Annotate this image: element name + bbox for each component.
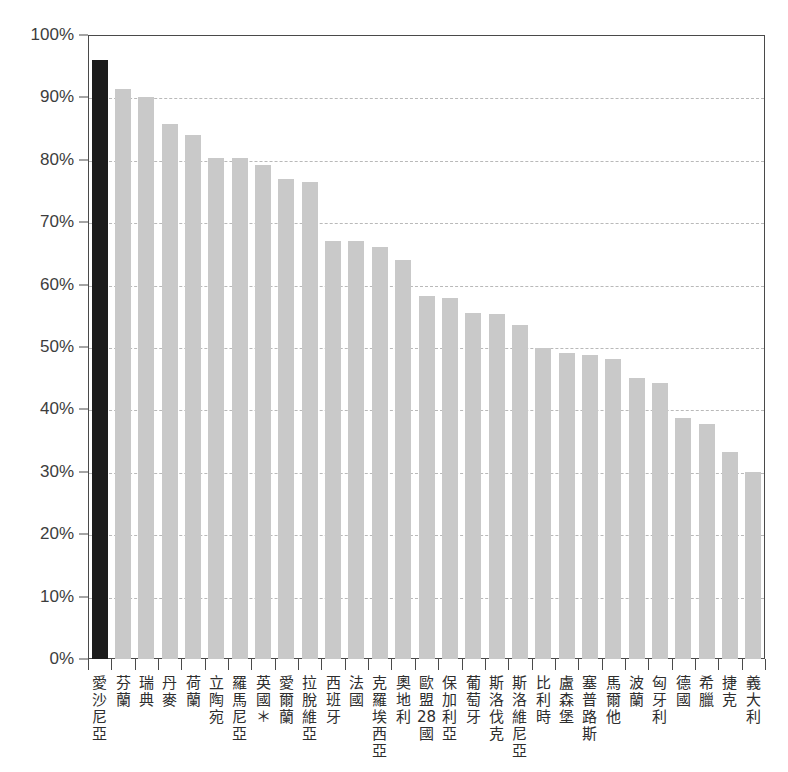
bar[interactable] xyxy=(278,179,294,659)
x-axis-category-label: 斯洛維尼亞 xyxy=(509,675,530,760)
y-axis-tick-mark xyxy=(79,596,88,597)
bar[interactable] xyxy=(395,260,411,659)
y-axis-tick-label: 90% xyxy=(40,87,74,107)
x-axis-tick-mark xyxy=(765,659,766,670)
x-axis-tick-mark xyxy=(578,659,579,670)
x-axis-tick-mark xyxy=(228,659,229,670)
x-axis-category-label: 芬蘭 xyxy=(113,675,134,709)
x-axis-tick-mark xyxy=(438,659,439,670)
y-axis-tick-mark xyxy=(79,35,88,36)
bar[interactable] xyxy=(745,472,761,659)
bar[interactable] xyxy=(92,60,108,659)
bar[interactable] xyxy=(675,418,691,659)
x-axis-category-label: 荷蘭 xyxy=(183,675,204,709)
bar[interactable] xyxy=(115,89,131,659)
y-axis: 0%10%20%30%40%50%60%70%80%90%100% xyxy=(0,0,88,772)
y-axis-tick-mark xyxy=(79,97,88,98)
x-axis-tick-mark xyxy=(672,659,673,670)
bar[interactable] xyxy=(489,314,505,659)
bars-layer xyxy=(88,35,765,659)
x-axis-tick-mark xyxy=(298,659,299,670)
y-axis-tick-label: 50% xyxy=(40,337,74,357)
bar[interactable] xyxy=(442,298,458,659)
x-axis-category-label: 丹麥 xyxy=(159,675,180,709)
bar[interactable] xyxy=(232,158,248,659)
x-axis-tick-mark xyxy=(485,659,486,670)
bar[interactable] xyxy=(699,424,715,659)
x-axis-category-label: 葡萄牙 xyxy=(463,675,484,726)
x-axis-category-label: 歐盟28國 xyxy=(416,675,437,743)
x-axis-category-label: 比利時 xyxy=(533,675,554,726)
y-axis-tick-label: 100% xyxy=(31,25,74,45)
y-axis-tick-mark xyxy=(79,347,88,348)
bar[interactable] xyxy=(512,325,528,659)
y-axis-tick-mark xyxy=(79,409,88,410)
x-axis-tick-mark xyxy=(415,659,416,670)
bar[interactable] xyxy=(185,135,201,659)
y-axis-tick-label: 40% xyxy=(40,399,74,419)
x-axis-tick-mark xyxy=(251,659,252,670)
x-axis-category-label: 羅馬尼亞 xyxy=(229,675,250,743)
x-axis-category-label: 德國 xyxy=(673,675,694,709)
x-axis-category-label: 瑞典 xyxy=(136,675,157,709)
x-axis-category-label: 塞普路斯 xyxy=(579,675,600,743)
bar[interactable] xyxy=(559,353,575,659)
bar[interactable] xyxy=(605,359,621,659)
x-axis-category-label: 斯洛伐克 xyxy=(486,675,507,743)
y-axis-tick-mark xyxy=(79,471,88,472)
x-axis-category-label: 馬爾他 xyxy=(603,675,624,726)
x-axis-tick-mark xyxy=(181,659,182,670)
bar[interactable] xyxy=(722,452,738,659)
x-axis-category-label: 捷克 xyxy=(719,675,740,709)
y-axis-tick-mark xyxy=(79,159,88,160)
x-axis-category-label: 法國 xyxy=(346,675,367,709)
x-axis-tick-mark xyxy=(648,659,649,670)
x-axis-category-label: 保加利亞 xyxy=(439,675,460,743)
x-axis-tick-mark xyxy=(532,659,533,670)
bar[interactable] xyxy=(419,296,435,659)
x-axis-tick-mark xyxy=(742,659,743,670)
y-axis-tick-mark xyxy=(79,534,88,535)
bar[interactable] xyxy=(162,124,178,659)
bar[interactable] xyxy=(302,182,318,659)
x-axis-category-label: 波蘭 xyxy=(626,675,647,709)
x-axis-category-label: 西班牙 xyxy=(323,675,344,726)
bar[interactable] xyxy=(465,313,481,659)
y-axis-tick-label: 10% xyxy=(40,587,74,607)
y-axis-tick-label: 80% xyxy=(40,150,74,170)
bar[interactable] xyxy=(348,241,364,659)
x-axis: 愛沙尼亞芬蘭瑞典丹麥荷蘭立陶宛羅馬尼亞英國＊愛爾蘭拉脫維亞西班牙法國克羅埃西亞奧… xyxy=(88,659,765,772)
x-axis-category-label: 義大利 xyxy=(743,675,764,726)
x-axis-tick-mark xyxy=(368,659,369,670)
y-axis-tick-label: 20% xyxy=(40,524,74,544)
x-axis-category-label: 拉脫維亞 xyxy=(299,675,320,743)
x-axis-tick-mark xyxy=(602,659,603,670)
x-axis-tick-mark xyxy=(321,659,322,670)
bar[interactable] xyxy=(255,165,271,659)
x-axis-tick-mark xyxy=(111,659,112,670)
x-axis-category-label: 愛沙尼亞 xyxy=(89,675,110,743)
x-axis-tick-mark xyxy=(555,659,556,670)
y-axis-tick-mark xyxy=(79,284,88,285)
y-axis-tick-mark xyxy=(79,659,88,660)
bar[interactable] xyxy=(138,97,154,659)
y-axis-tick-label: 30% xyxy=(40,462,74,482)
bar[interactable] xyxy=(582,355,598,659)
bar[interactable] xyxy=(652,383,668,659)
bar[interactable] xyxy=(208,158,224,659)
bar[interactable] xyxy=(629,378,645,659)
bar[interactable] xyxy=(325,241,341,659)
bar[interactable] xyxy=(535,348,551,659)
x-axis-tick-mark xyxy=(695,659,696,670)
x-axis-category-label: 立陶宛 xyxy=(206,675,227,726)
x-axis-tick-mark xyxy=(205,659,206,670)
bar[interactable] xyxy=(372,247,388,659)
x-axis-category-label: 希臘 xyxy=(696,675,717,709)
x-axis-category-label: 匈牙利 xyxy=(649,675,670,726)
y-axis-tick-mark xyxy=(79,222,88,223)
y-axis-tick-label: 60% xyxy=(40,275,74,295)
x-axis-tick-mark xyxy=(345,659,346,670)
x-axis-tick-mark xyxy=(391,659,392,670)
x-axis-tick-mark xyxy=(718,659,719,670)
chart-title xyxy=(0,0,788,6)
